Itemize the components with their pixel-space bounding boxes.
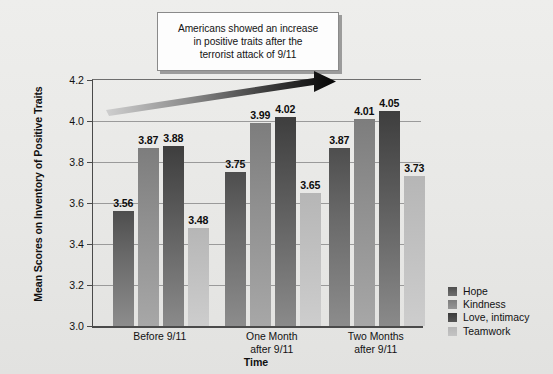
legend-swatch-icon — [448, 287, 457, 296]
legend-swatch-icon — [448, 313, 457, 322]
chart-figure: Americans showed an increase in positive… — [0, 0, 553, 374]
legend-item[interactable]: Love, intimacy — [448, 311, 529, 324]
x-axis-category-label: One Month after 9/11 — [246, 331, 297, 356]
annotation-text: Americans showed an increase in positive… — [178, 22, 318, 62]
legend-item-label: Love, intimacy — [463, 312, 529, 323]
bar-value-label: 3.65 — [300, 179, 320, 191]
y-axis-tick — [87, 285, 93, 287]
x-axis-title: Time — [244, 356, 269, 368]
bar-value-label: 3.88 — [163, 132, 183, 144]
bar-value-label: 4.05 — [379, 97, 399, 109]
bar — [250, 123, 271, 326]
bar — [113, 211, 134, 326]
bar-value-label: 3.75 — [225, 158, 245, 170]
legend-item-label: Hope — [463, 286, 488, 297]
bar — [275, 117, 296, 326]
bar-value-label: 3.87 — [138, 134, 158, 146]
y-axis-tick-label: 4.0 — [69, 115, 84, 127]
bar-value-label: 3.99 — [250, 109, 270, 121]
x-axis-line — [92, 326, 423, 328]
legend-item[interactable]: Hope — [448, 285, 529, 298]
bar — [379, 111, 400, 326]
y-axis-tick-label: 3.0 — [69, 320, 84, 332]
bar-value-label: 4.02 — [275, 103, 295, 115]
y-axis-tick-label: 3.6 — [69, 197, 84, 209]
legend-item[interactable]: Teamwork — [448, 325, 529, 338]
y-axis-tick — [87, 121, 93, 123]
bar — [163, 146, 184, 326]
y-axis-tick — [87, 203, 93, 205]
annotation-callout: Americans showed an increase in positive… — [157, 12, 339, 71]
legend-swatch-icon — [448, 300, 457, 309]
bar — [354, 119, 375, 326]
bar — [300, 193, 321, 326]
chart-legend: HopeKindnessLove, intimacyTeamwork — [448, 285, 529, 338]
bar — [225, 172, 246, 326]
y-axis-tick — [87, 162, 93, 164]
y-axis-tick-label: 4.2 — [69, 74, 84, 86]
legend-item-label: Kindness — [463, 299, 506, 310]
bar — [138, 148, 159, 326]
bar — [329, 148, 350, 326]
y-axis-title: Mean Scores on Inventory of Positive Tra… — [32, 64, 44, 324]
bar-value-label: 3.56 — [113, 197, 133, 209]
plot-inner: 3.03.23.43.63.84.04.23.563.873.883.483.7… — [93, 80, 421, 326]
y-axis-tick-label: 3.8 — [69, 156, 84, 168]
plot-area: 3.03.23.43.63.84.04.23.563.873.883.483.7… — [92, 79, 421, 326]
y-axis-tick — [87, 80, 93, 82]
bar-value-label: 4.01 — [354, 105, 374, 117]
legend-swatch-icon — [448, 327, 457, 336]
legend-item-label: Teamwork — [463, 326, 510, 337]
legend-item[interactable]: Kindness — [448, 298, 529, 311]
bar-value-label: 3.73 — [404, 162, 424, 174]
y-axis-tick-label: 3.4 — [69, 238, 84, 250]
x-axis-category-label: Before 9/11 — [133, 331, 186, 344]
bar-value-label: 3.48 — [188, 214, 208, 226]
bar-value-label: 3.87 — [329, 134, 349, 146]
bar — [404, 176, 425, 326]
y-axis-tick-label: 3.2 — [69, 279, 84, 291]
y-axis-tick — [87, 244, 93, 246]
bar — [188, 228, 209, 326]
x-axis-category-label: Two Months after 9/11 — [348, 331, 404, 356]
